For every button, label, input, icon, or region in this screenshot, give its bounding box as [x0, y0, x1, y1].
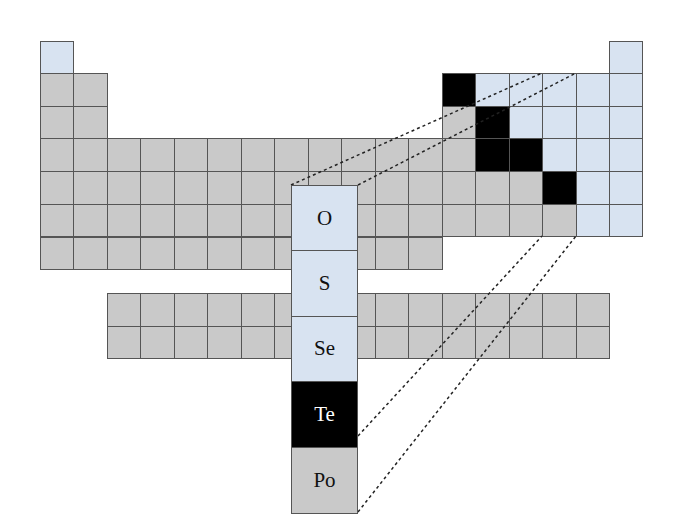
element-cell-p2-g16: [542, 73, 576, 107]
element-cell-p4-g2: [73, 138, 107, 172]
f-block-cell: [174, 293, 208, 327]
element-cell-p4-g3: [107, 138, 141, 172]
element-cell-p5-g14: [475, 171, 509, 205]
element-cell-p6-g3: [107, 204, 141, 238]
element-cell-p1-g1: [40, 41, 74, 75]
f-block-cell: [107, 293, 141, 327]
element-cell-p3-g1: [40, 106, 74, 140]
element-cell-p6-g16: [542, 204, 576, 238]
element-cell-p5-g1: [40, 171, 74, 205]
f-block-cell: [241, 326, 275, 360]
f-block-cell: [475, 326, 509, 360]
element-cell-p4-g16: [542, 138, 576, 172]
f-block-cell: [408, 293, 442, 327]
element-symbol: Se: [314, 336, 335, 361]
element-cell-p5-g18: [609, 171, 643, 205]
f-block-cell: [107, 326, 141, 360]
element-symbol: O: [317, 206, 332, 231]
element-cell-p7-g1: [40, 237, 74, 271]
element-cell-p6-g6: [207, 204, 241, 238]
f-block-cell: [542, 293, 576, 327]
element-cell-p7-g12: [408, 237, 442, 271]
element-cell-p4-g6: [207, 138, 241, 172]
element-cell-p7-g5: [174, 237, 208, 271]
f-block-cell: [576, 326, 610, 360]
element-cell-p1-g18: [609, 41, 643, 75]
periodic-table-diagram: O S Se Te Po: [0, 0, 673, 530]
element-cell-p4-g17: [576, 138, 610, 172]
group-16-zoom-column: O S Se Te Po: [291, 185, 358, 514]
element-cell-p4-g14: [475, 138, 509, 172]
f-block-cell: [375, 326, 409, 360]
element-cell-p7-g11: [375, 237, 409, 271]
element-cell-p4-g1: [40, 138, 74, 172]
element-cell-p6-g5: [174, 204, 208, 238]
element-cell-p2-g14: [475, 73, 509, 107]
f-block-cell: [375, 293, 409, 327]
element-cell-p2-g1: [40, 73, 74, 107]
element-cell-p6-g7: [241, 204, 275, 238]
element-cell-p4-g4: [140, 138, 174, 172]
f-block-cell: [140, 326, 174, 360]
element-cell-p6-g11: [375, 204, 409, 238]
f-block-cell: [509, 293, 543, 327]
f-block-cell: [207, 293, 241, 327]
f-block-cell: [442, 326, 476, 360]
element-cell-p4-g18: [609, 138, 643, 172]
element-cell-p2-g18: [609, 73, 643, 107]
element-cell-p6-g15: [509, 204, 543, 238]
element-cell-p4-g8: [274, 138, 308, 172]
element-cell-p2-g15: [509, 73, 543, 107]
element-cell-p6-g12: [408, 204, 442, 238]
element-cell-p6-g17: [576, 204, 610, 238]
element-cell-p5-g5: [174, 171, 208, 205]
element-cell-p5-g12: [408, 171, 442, 205]
f-block-cell: [576, 293, 610, 327]
element-cell-p5-g4: [140, 171, 174, 205]
element-cell-p5-g17: [576, 171, 610, 205]
element-symbol: Te: [314, 402, 335, 427]
element-cell-p4-g10: [341, 138, 375, 172]
element-cell-p3-g18: [609, 106, 643, 140]
element-cell-p7-g7: [241, 237, 275, 271]
f-block-cell: [140, 293, 174, 327]
f-block-cell: [509, 326, 543, 360]
f-block-cell: [542, 326, 576, 360]
element-cell-p4-g13: [442, 138, 476, 172]
element-symbol: Po: [313, 468, 335, 493]
element-cell-p7-g2: [73, 237, 107, 271]
element-cell-p2-g17: [576, 73, 610, 107]
element-cell-p3-g14: [475, 106, 509, 140]
element-cell-p3-g16: [542, 106, 576, 140]
f-block-cell: [174, 326, 208, 360]
element-cell-p4-g15: [509, 138, 543, 172]
element-cell-p4-g11: [375, 138, 409, 172]
element-cell-oxygen: O: [292, 186, 357, 251]
element-cell-p7-g4: [140, 237, 174, 271]
element-cell-p6-g2: [73, 204, 107, 238]
f-block-cell: [241, 293, 275, 327]
element-cell-p3-g17: [576, 106, 610, 140]
element-cell-p6-g4: [140, 204, 174, 238]
element-cell-p4-g12: [408, 138, 442, 172]
f-block-cell: [475, 293, 509, 327]
element-cell-p4-g7: [241, 138, 275, 172]
element-cell-p3-g2: [73, 106, 107, 140]
element-cell-p2-g13: [442, 73, 476, 107]
connector-bottom-right: [358, 236, 576, 512]
element-cell-p4-g9: [308, 138, 342, 172]
element-cell-p3-g15: [509, 106, 543, 140]
element-cell-p5-g3: [107, 171, 141, 205]
element-cell-p7-g3: [107, 237, 141, 271]
f-block-cell: [207, 326, 241, 360]
element-cell-p6-g1: [40, 204, 74, 238]
f-block-cell: [408, 326, 442, 360]
element-cell-tellurium: Te: [292, 382, 357, 447]
element-cell-p7-g6: [207, 237, 241, 271]
f-block-cell: [442, 293, 476, 327]
element-cell-p6-g14: [475, 204, 509, 238]
element-cell-selenium: Se: [292, 317, 357, 382]
element-cell-p6-g18: [609, 204, 643, 238]
element-symbol: S: [319, 271, 331, 296]
element-cell-p5-g7: [241, 171, 275, 205]
